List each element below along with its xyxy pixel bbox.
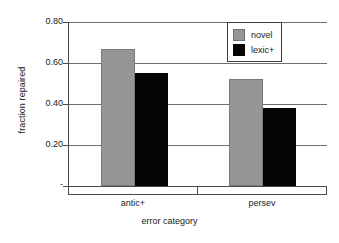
y-tick-label-020: 0.20	[29, 140, 63, 149]
category-tick-left	[68, 187, 69, 195]
y-axis-title: fraction repaired	[17, 30, 27, 170]
x-axis-title: error category	[0, 216, 339, 226]
x-tick-label-persev: persev	[232, 198, 292, 208]
y-tick-label-zero: -	[29, 180, 63, 189]
bar-lexic-antic	[135, 73, 168, 186]
legend-item-novel: novel	[233, 27, 274, 42]
bar-novel-antic	[101, 49, 135, 186]
legend-swatch-lexic-icon	[233, 44, 245, 56]
bar-chart: fraction repaired 0.80 0.60 0.40 0.20 - …	[0, 0, 339, 243]
legend-label-novel: novel	[251, 30, 273, 40]
legend-item-lexic: lexic+	[233, 42, 274, 57]
category-tick-middle	[197, 187, 198, 195]
bar-novel-persev	[229, 79, 263, 186]
bar-lexic-persev	[263, 108, 296, 186]
x-tick-label-antic: antic+	[103, 198, 163, 208]
legend-swatch-novel-icon	[233, 29, 245, 41]
y-tick-label-080: 0.80	[29, 17, 63, 26]
y-axis-tick-labels: 0.80 0.60 0.40 0.20 -	[27, 0, 63, 243]
legend: novel lexic+	[227, 22, 282, 62]
legend-label-lexic: lexic+	[251, 45, 274, 55]
y-tick-label-040: 0.40	[29, 99, 63, 108]
category-tick-right	[326, 187, 327, 195]
y-tick-label-060: 0.60	[29, 58, 63, 67]
plot-area	[68, 22, 326, 186]
gridline-080	[69, 22, 327, 23]
